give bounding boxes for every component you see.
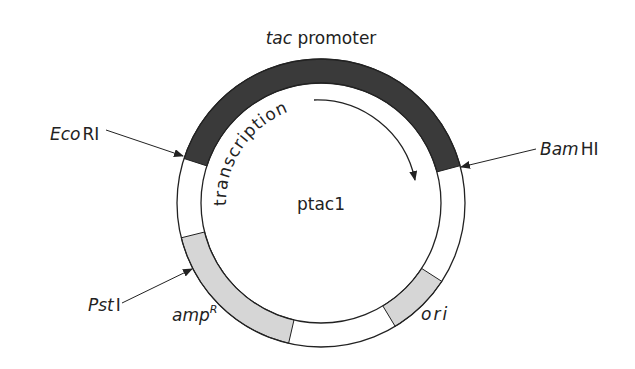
psti-label: PstI	[88, 295, 121, 315]
plasmid-diagram: tac promoter transcription ptac1 EcoRI B…	[0, 0, 635, 369]
psti-pointer	[122, 269, 192, 303]
promoter-label: tac promoter	[266, 28, 377, 48]
ecori-label: EcoRI	[50, 124, 99, 144]
ecori-pointer	[106, 130, 183, 156]
ori-label: ori	[421, 304, 449, 324]
plasmid-name: ptac1	[297, 194, 345, 214]
bamhi-pointer	[461, 149, 536, 167]
ampR-label: ampR	[172, 303, 217, 325]
ampR-segment	[181, 232, 294, 343]
bamhi-label: BamHI	[540, 139, 598, 159]
